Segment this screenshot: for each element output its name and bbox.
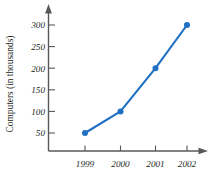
y-tick-label-250: 250	[31, 42, 45, 52]
y-tick-label-50: 50	[36, 128, 46, 138]
y-tick-label-100: 100	[31, 107, 45, 117]
x-tick-label-2001: 2001	[146, 159, 164, 169]
x-axis-ticks	[85, 146, 187, 152]
data-point-2002	[184, 22, 190, 28]
data-point-1999	[82, 130, 88, 136]
data-point-2000	[118, 108, 124, 114]
y-axis-title: Computers (in thousands)	[5, 36, 16, 133]
x-tick-label-2002: 2002	[178, 159, 197, 169]
data-series-line	[85, 25, 187, 133]
data-point-markers	[82, 22, 190, 136]
y-axis-arrowhead	[45, 4, 52, 14]
x-axis-tick-labels: 1999 2000 2001 2002	[76, 159, 197, 169]
x-axis-arrowhead	[199, 148, 209, 155]
data-point-2001	[153, 65, 159, 71]
x-tick-label-2000: 2000	[111, 159, 130, 169]
y-axis-ticks	[49, 25, 56, 133]
y-tick-label-150: 150	[31, 85, 45, 95]
y-axis-tick-labels: 300 250 200 150 100 50	[30, 20, 45, 138]
y-tick-label-200: 200	[31, 64, 45, 74]
x-tick-label-1999: 1999	[76, 159, 95, 169]
y-tick-label-300: 300	[30, 20, 45, 30]
line-chart-figure: 300 250 200 150 100 50 1999 2000 2001 20…	[0, 0, 215, 175]
chart-canvas: 300 250 200 150 100 50 1999 2000 2001 20…	[0, 0, 215, 175]
